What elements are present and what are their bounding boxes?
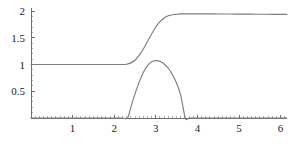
x-tick-label: 4 — [195, 122, 201, 134]
y-tick-label: 0.5 — [11, 85, 25, 97]
y-tick-label: 1.5 — [11, 32, 25, 44]
x-tick-label: 3 — [153, 122, 159, 134]
y-axis-tick-labels: 0.511.52 — [11, 5, 25, 97]
x-tick-label: 5 — [236, 122, 242, 134]
data-curves — [31, 14, 287, 120]
plot-canvas: 123456 0.511.52 — [0, 0, 288, 146]
curve-bump — [31, 61, 287, 120]
y-tick-label: 2 — [20, 5, 26, 17]
x-tick-label: 2 — [111, 122, 117, 134]
x-axis-tick-labels: 123456 — [70, 122, 284, 134]
curve-sigmoid-step — [31, 14, 287, 65]
y-tick-label: 1 — [20, 59, 26, 71]
x-tick-label: 1 — [70, 122, 76, 134]
minor-ticks — [31, 16, 285, 118]
plot-figure: 123456 0.511.52 — [0, 0, 288, 146]
x-tick-label: 6 — [278, 122, 284, 134]
